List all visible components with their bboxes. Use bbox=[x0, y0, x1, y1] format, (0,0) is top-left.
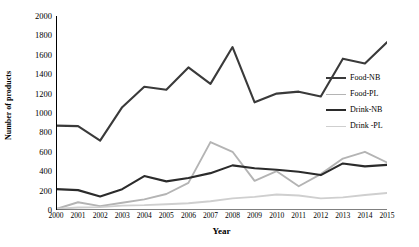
x-axis-tick-label: 2012 bbox=[313, 211, 328, 220]
legend-item[interactable]: Drink -PL bbox=[326, 118, 418, 134]
legend-label: Drink -PL bbox=[350, 122, 383, 130]
legend-label: Food-PL bbox=[350, 90, 378, 98]
legend-label: Drink-NB bbox=[350, 106, 382, 114]
chart-container: Number of products 020040060080010001200… bbox=[0, 0, 419, 247]
x-axis-tick-label: 2014 bbox=[357, 211, 372, 220]
x-axis-tick-label: 2011 bbox=[291, 211, 306, 220]
y-axis-title: Number of products bbox=[0, 0, 18, 210]
x-axis-tick-label: 2006 bbox=[181, 211, 196, 220]
y-axis-tick-label: 1800 bbox=[35, 31, 52, 40]
x-axis-tick-label: 2009 bbox=[247, 211, 262, 220]
legend-item[interactable]: Drink-NB bbox=[326, 102, 418, 118]
x-axis-tick-label: 2003 bbox=[115, 211, 130, 220]
legend-color-swatch bbox=[326, 94, 346, 95]
x-axis-tick-label: 2004 bbox=[137, 211, 152, 220]
legend-item[interactable]: Food-NB bbox=[326, 70, 418, 86]
y-axis-tick-label: 1600 bbox=[35, 51, 52, 60]
legend-color-swatch bbox=[326, 109, 346, 111]
y-axis-tick-label: 1000 bbox=[35, 109, 52, 118]
x-axis-tick-label: 2007 bbox=[203, 211, 218, 220]
y-axis-tick-label: 800 bbox=[39, 128, 52, 137]
series-line bbox=[56, 163, 387, 196]
x-axis-tick-labels: 2000200120022003200420052006200720082009… bbox=[56, 211, 387, 225]
y-axis-tick-label: 1200 bbox=[35, 89, 52, 98]
y-axis-title-label: Number of products bbox=[5, 70, 14, 139]
x-axis-tick-label: 2000 bbox=[49, 211, 64, 220]
legend-label: Food-NB bbox=[350, 74, 380, 82]
x-axis-tick-label: 2015 bbox=[380, 211, 395, 220]
x-axis-tick-label: 2001 bbox=[71, 211, 86, 220]
y-axis-tick-label: 400 bbox=[39, 167, 52, 176]
y-axis-tick-label: 1400 bbox=[35, 70, 52, 79]
legend-item[interactable]: Food-PL bbox=[326, 86, 418, 102]
x-axis-tick-label: 2008 bbox=[225, 211, 240, 220]
x-axis-tick-label: 2002 bbox=[93, 211, 108, 220]
chart-legend: Food-NBFood-PLDrink-NBDrink -PL bbox=[326, 70, 418, 134]
x-axis-tick-label: 2010 bbox=[269, 211, 284, 220]
y-axis-tick-label: 200 bbox=[39, 186, 52, 195]
y-axis-tick-label: 600 bbox=[39, 148, 52, 157]
x-axis-title: Year bbox=[56, 226, 387, 236]
y-axis-tick-labels: 0200400600800100012001400160018002000 bbox=[18, 0, 54, 247]
x-axis-tick-label: 2013 bbox=[335, 211, 350, 220]
legend-color-swatch bbox=[326, 77, 346, 79]
legend-color-swatch bbox=[326, 126, 346, 127]
x-axis-tick-label: 2005 bbox=[159, 211, 174, 220]
y-axis-tick-label: 2000 bbox=[35, 12, 52, 21]
